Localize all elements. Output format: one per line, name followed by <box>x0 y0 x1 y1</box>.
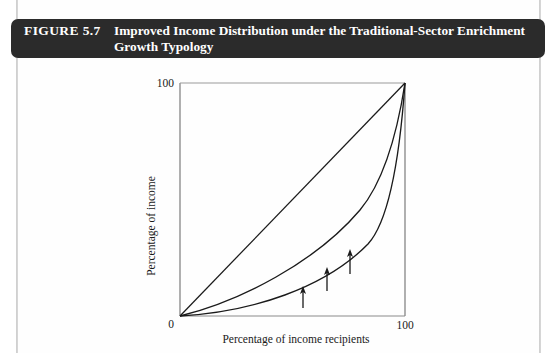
y-axis-title: Percentage of income <box>145 176 158 276</box>
figure-header-inner: FIGURE 5.7 Improved Income Distribution … <box>11 19 545 58</box>
y-axis-tick-0: 0 <box>168 318 174 330</box>
x-axis-tick-100: 100 <box>396 319 414 331</box>
figure-number-label: FIGURE 5.7 <box>24 23 101 39</box>
chart-svg: 100 0 100 Percentage of income Percentag… <box>0 58 559 353</box>
figure-title: Improved Income Distribution under the T… <box>114 23 539 56</box>
figure-title-line-1: Improved Income Distribution under the T… <box>114 23 525 38</box>
lorenz-curve-chart: 100 0 100 Percentage of income Percentag… <box>0 58 559 353</box>
figure-title-line-2: Growth Typology <box>114 39 213 54</box>
y-axis-tick-100: 100 <box>157 77 175 89</box>
figure-header-bar: FIGURE 5.7 Improved Income Distribution … <box>11 19 545 58</box>
line-of-equality <box>180 83 405 316</box>
shift-arrow-2 <box>324 267 330 291</box>
x-axis-title: Percentage of income recipients <box>222 333 370 346</box>
figure-page: FIGURE 5.7 Improved Income Distribution … <box>0 0 559 353</box>
